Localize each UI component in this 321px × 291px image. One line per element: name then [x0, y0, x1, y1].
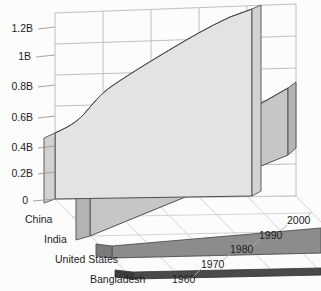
year-label-1970: 1970 [201, 258, 225, 270]
year-label-1990: 1990 [259, 229, 283, 241]
series-ribbon-china [44, 5, 261, 203]
y-tick-label: 1B [18, 50, 31, 62]
year-label-1980: 1980 [230, 243, 254, 255]
y-tick-label: 0.2B [11, 167, 33, 179]
y-tick-label: 0.4B [11, 141, 33, 153]
series-ribbon-united-states [96, 228, 321, 258]
population-3d-ribbon-chart: 1.2B 1B 0.8B 0.6B 0.4B 0.2B 0 China Indi… [0, 0, 321, 291]
y-tick-label: 0 [22, 194, 28, 206]
year-label-1960: 1960 [172, 273, 196, 285]
series-label-china: China [25, 213, 53, 225]
y-tick-label: 0.8B [11, 80, 33, 92]
y-tick-label: 0.6B [11, 111, 33, 123]
chart-container: 1.2B 1B 0.8B 0.6B 0.4B 0.2B 0 China Indi… [0, 0, 321, 291]
series-label-bangladesh: Bangladesh [90, 273, 146, 285]
series-label-united-states: United States [55, 253, 118, 265]
series-label-india: India [44, 233, 67, 245]
year-label-2000: 2000 [287, 214, 311, 226]
y-tick-label: 1.2B [11, 22, 33, 34]
y-axis-tick-labels: 1.2B 1B 0.8B 0.6B 0.4B 0.2B 0 [11, 22, 33, 206]
